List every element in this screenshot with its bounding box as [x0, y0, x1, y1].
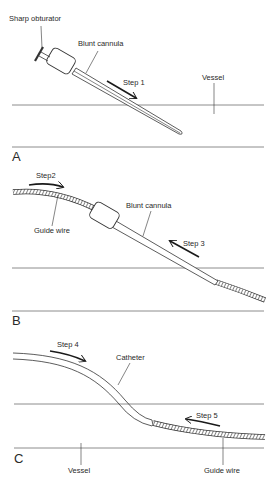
- cannula-hub: [45, 47, 77, 76]
- panel-letter-c: C: [14, 451, 23, 466]
- label-guide-wire: Guide wire: [34, 226, 70, 235]
- leader-catheter: [118, 363, 130, 385]
- label-vessel: Vessel: [202, 73, 224, 82]
- leader-cannula: [86, 51, 98, 73]
- label-step-1: Step 1: [123, 78, 145, 87]
- label-step-5: Step 5: [196, 411, 218, 420]
- panel-letter-a: A: [12, 149, 21, 164]
- arrow-step-4: [50, 351, 85, 361]
- label-catheter: Catheter: [116, 353, 145, 362]
- arrow-step-5: [186, 419, 220, 426]
- panel-a: Sharp obturator Blunt cannula Step 1 Ves…: [9, 14, 264, 164]
- panel-letter-b: B: [12, 313, 21, 328]
- label-vessel: Vessel: [68, 466, 90, 475]
- label-sharp-obturator: Sharp obturator: [9, 14, 62, 23]
- obturator-cap: [35, 47, 43, 61]
- leader-guide-wire: [52, 195, 58, 226]
- arrow-step-2: [29, 184, 63, 187]
- seldinger-technique-figure: Sharp obturator Blunt cannula Step 1 Ves…: [0, 0, 276, 483]
- label-blunt-cannula: Blunt cannula: [126, 201, 172, 210]
- leader-obturator: [41, 26, 42, 48]
- label-step-3: Step 3: [183, 239, 205, 248]
- catheter: [13, 353, 153, 426]
- blunt-cannula-shaft: [112, 221, 218, 285]
- panel-b: Step2 Guide wire Blunt cannula Step 3 B: [12, 171, 265, 328]
- panel-c: Step 4 Catheter Step 5 Vessel Guide wire…: [13, 340, 265, 475]
- label-step-2: Step2: [36, 171, 56, 180]
- label-guide-wire: Guide wire: [204, 466, 240, 475]
- leader-cannula: [143, 211, 151, 236]
- label-blunt-cannula: Blunt cannula: [78, 39, 124, 48]
- label-step-4: Step 4: [57, 340, 79, 349]
